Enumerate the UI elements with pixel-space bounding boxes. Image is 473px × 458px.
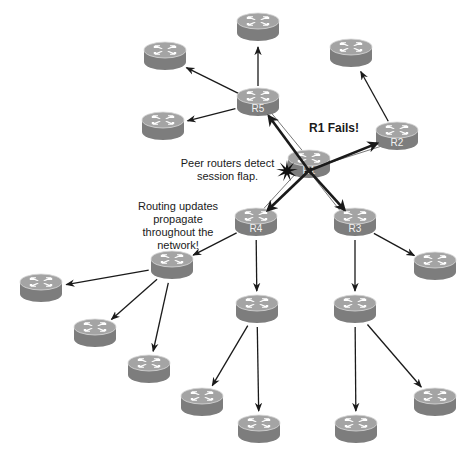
propagate-line-4: network! (128, 239, 228, 252)
detect-line-1: Peer routers detect (170, 157, 285, 170)
router-icon (151, 251, 193, 279)
update-arrow (186, 68, 238, 94)
router-label: R5 (252, 103, 265, 114)
router-icon (144, 42, 186, 70)
update-arrow (188, 109, 236, 121)
router-label: R4 (250, 223, 263, 234)
update-arrow (256, 240, 257, 291)
update-arrow (361, 72, 389, 122)
router-icon (335, 415, 377, 443)
router-icon: R5 (237, 88, 279, 116)
router-label: R2 (391, 137, 404, 148)
router-icon (20, 274, 62, 302)
routers: R1R2R3R4R5 (20, 13, 456, 443)
router-icon (238, 415, 280, 443)
failure-annotation: R1 Fails! (309, 122, 359, 135)
detect-annotation: Peer routers detect session flap. (170, 157, 285, 183)
network-diagram: R1R2R3R4R5 R1 Fails! Peer routers detect… (0, 0, 473, 458)
update-arrow (153, 283, 168, 351)
router-icon (330, 39, 372, 67)
propagate-line-2: propagate (128, 213, 228, 226)
update-arrow (355, 327, 356, 411)
update-arrow (212, 326, 247, 386)
diagram-canvas: R1R2R3R4R5 (0, 0, 473, 458)
router-icon (74, 319, 116, 347)
router-icon (128, 355, 170, 383)
router-icon: R2 (376, 122, 418, 150)
router-icon: R4 (235, 208, 277, 236)
router-icon (414, 388, 456, 416)
router-icon (181, 388, 223, 416)
router-icon (142, 112, 184, 140)
propagate-line-3: throughout the (128, 226, 228, 239)
router-label: R3 (349, 223, 362, 234)
router-icon: R3 (334, 208, 376, 236)
router-icon (236, 295, 278, 323)
router-icon (334, 295, 376, 323)
detect-line-2: session flap. (170, 170, 285, 183)
update-arrow (257, 327, 258, 411)
update-arrow (367, 324, 421, 387)
propagate-line-1: Routing updates (128, 200, 228, 213)
router-icon (237, 13, 279, 41)
update-arrow (111, 279, 157, 319)
update-arrow (374, 233, 414, 255)
router-icon (414, 252, 456, 280)
update-arrow (66, 270, 148, 284)
propagate-annotation: Routing updates propagate throughout the… (128, 200, 228, 252)
